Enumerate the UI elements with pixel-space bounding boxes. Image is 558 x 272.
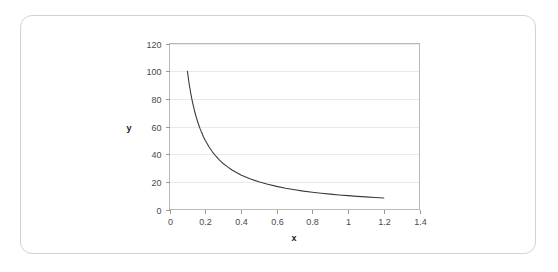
x-axis-ticks-group	[171, 210, 421, 214]
chart-card: 020406080100120 00.20.40.60.811.21.4 y x	[20, 15, 536, 254]
y-axis-tick-label: 100	[146, 67, 161, 77]
y-axis-tick-label: 40	[151, 150, 161, 160]
y-axis-tick-label: 20	[151, 178, 161, 188]
x-axis-tick-label: 0	[168, 217, 173, 227]
gridlines-group	[170, 44, 420, 210]
plot-wrapper: 020406080100120 00.20.40.60.811.21.4 y x	[21, 16, 537, 255]
chart-svg: 020406080100120 00.20.40.60.811.21.4 y x	[21, 16, 537, 255]
y-axis-tick-label: 0	[156, 206, 161, 216]
x-axis-tick-label: 0.4	[235, 217, 248, 227]
y-axis-tick-label: 60	[151, 123, 161, 133]
data-series-line	[187, 71, 383, 198]
x-axis-tick-label: 0.8	[306, 217, 319, 227]
x-axis-tick-label: 1.2	[378, 217, 391, 227]
x-axis-tick-labels: 00.20.40.60.811.21.4	[168, 217, 427, 227]
y-axis-tick-label: 80	[151, 95, 161, 105]
y-axis-tick-labels: 020406080100120	[146, 40, 161, 216]
x-axis-tick-label: 1	[346, 217, 351, 227]
x-axis-tick-label: 0.2	[199, 217, 212, 227]
x-axis-tick-label: 1.4	[414, 217, 427, 227]
plot-frame	[170, 44, 420, 210]
y-axis-title: y	[126, 123, 131, 133]
y-axis-tick-label: 120	[146, 40, 161, 50]
x-axis-title: x	[291, 233, 296, 243]
x-axis-tick-label: 0.6	[271, 217, 284, 227]
figure-root: 020406080100120 00.20.40.60.811.21.4 y x	[0, 0, 558, 272]
y-axis-ticks-group	[166, 45, 170, 211]
